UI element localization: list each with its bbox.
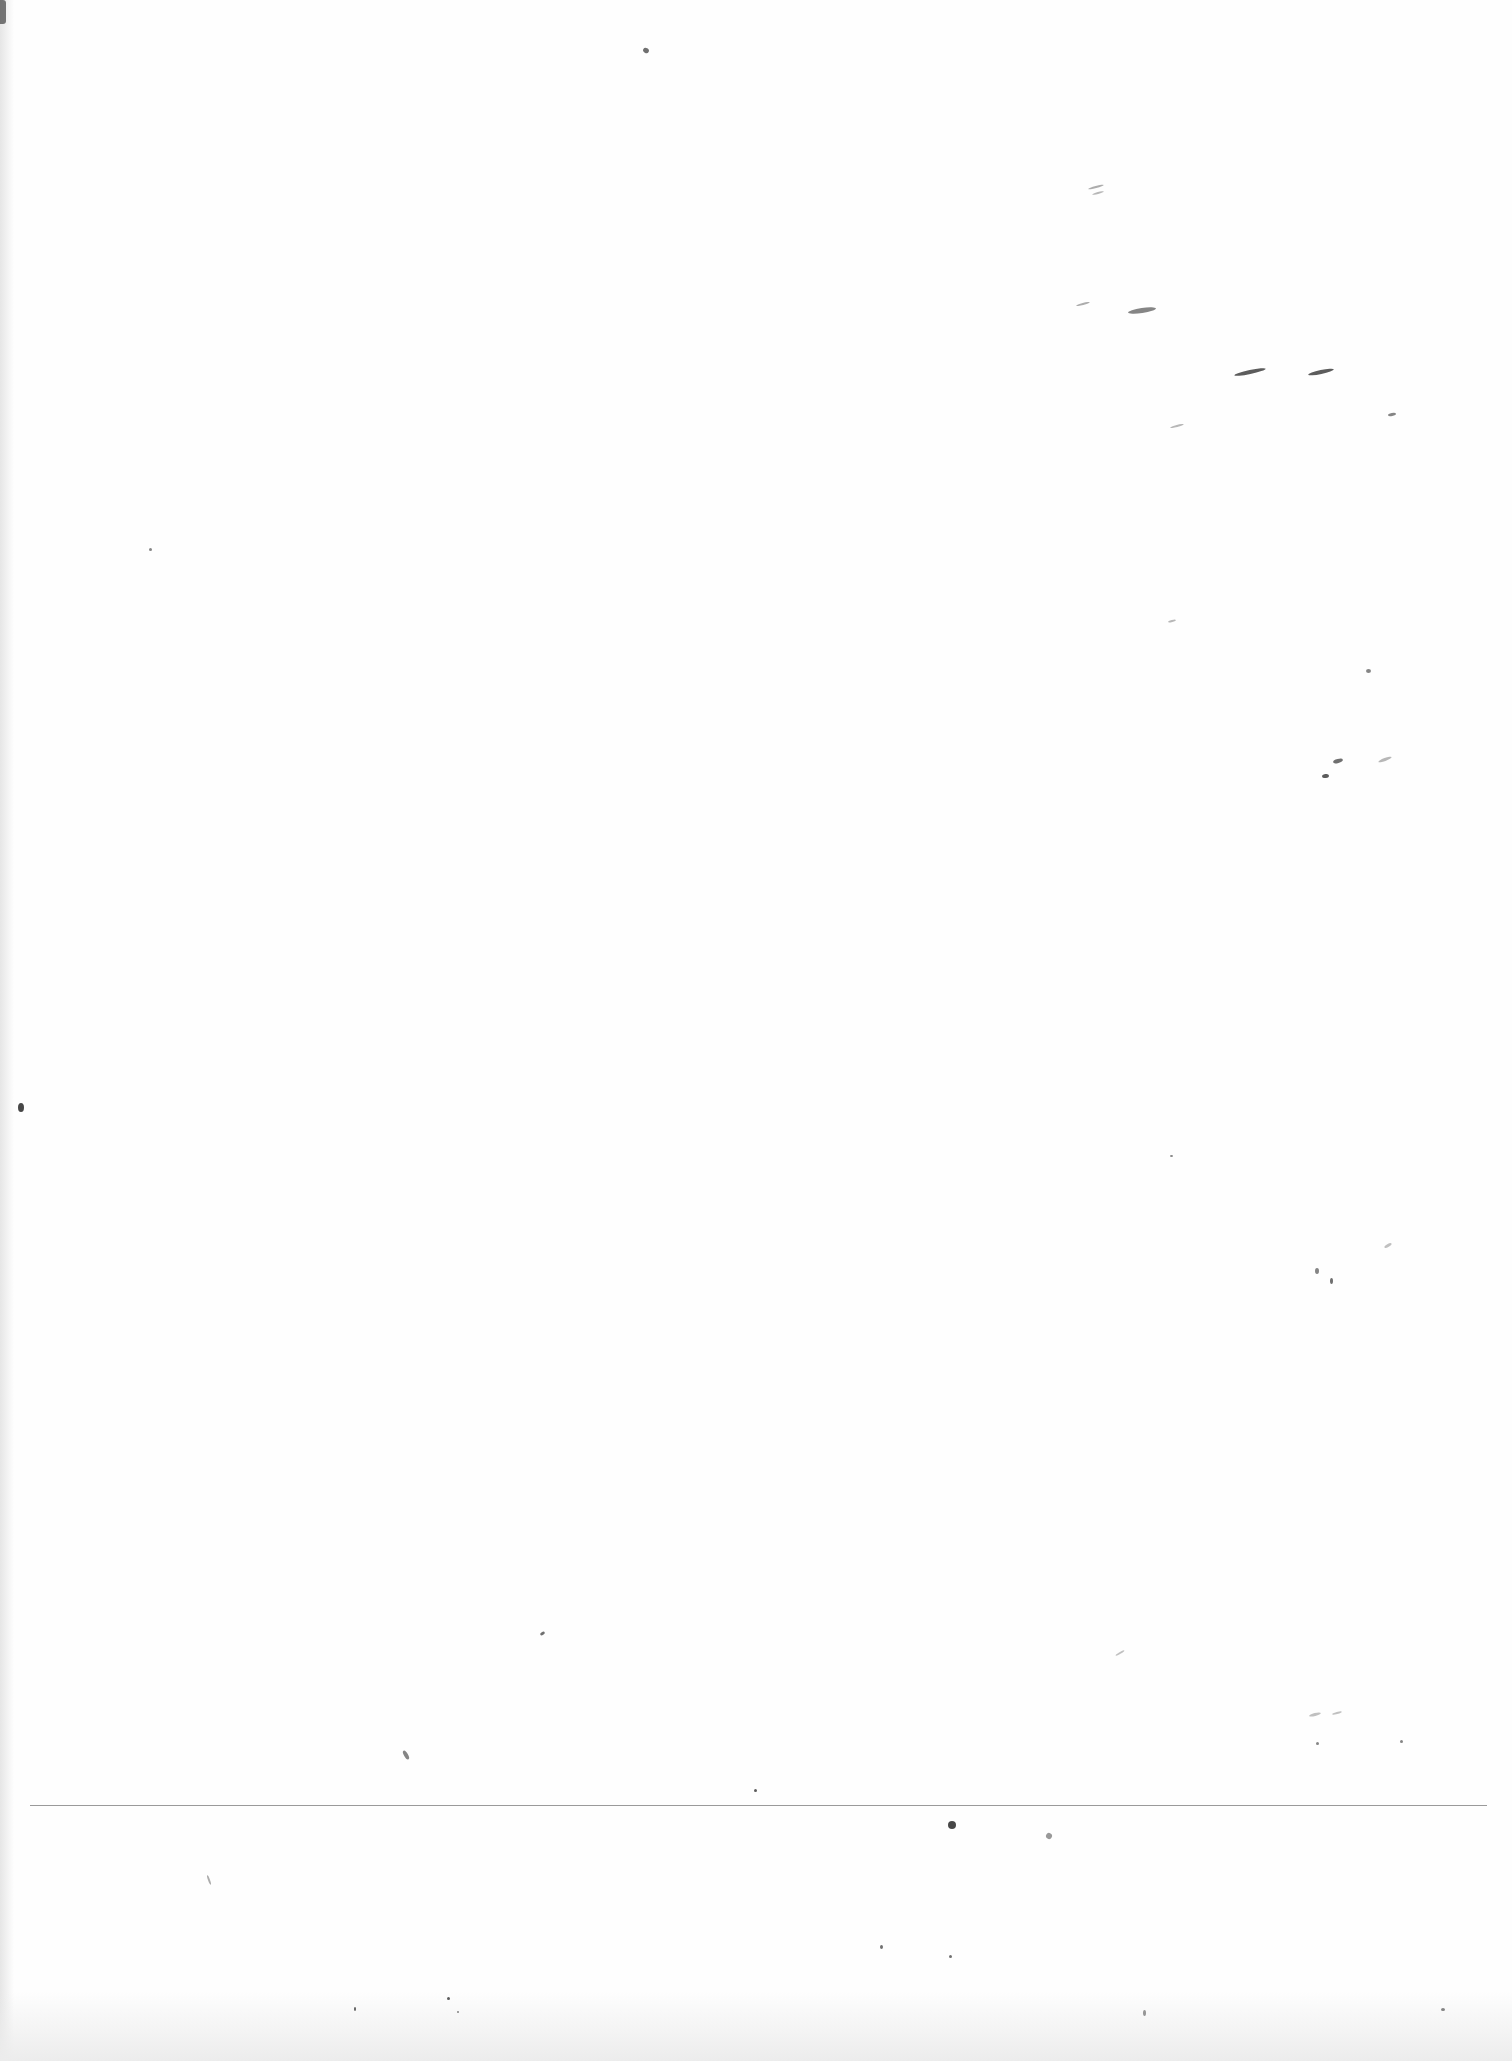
scan-speck <box>1170 1155 1173 1157</box>
scan-shadow-bottom <box>0 1991 1512 2061</box>
scan-speck <box>1384 1242 1392 1249</box>
scan-speck <box>1400 1740 1403 1743</box>
scan-speck <box>1330 1278 1333 1284</box>
scan-speck <box>1315 1268 1319 1274</box>
scan-speck <box>1076 301 1090 307</box>
scan-speck <box>1092 190 1104 195</box>
scan-speck <box>642 47 650 54</box>
scan-speck <box>1388 412 1396 416</box>
scan-speck <box>1088 184 1104 190</box>
scan-speck <box>1441 2008 1445 2011</box>
scan-speck <box>540 1631 546 1636</box>
scan-speck <box>948 1821 956 1829</box>
scan-speck <box>1333 758 1344 764</box>
scan-shadow-left <box>0 0 14 2061</box>
scan-speck <box>1170 423 1184 429</box>
scan-speck <box>880 1945 883 1949</box>
scan-speck <box>1168 619 1176 623</box>
scan-speck <box>1322 773 1330 778</box>
scan-speck <box>18 1103 24 1112</box>
scan-speck <box>457 2011 459 2013</box>
scan-speck <box>402 1750 410 1761</box>
scan-speck <box>1316 1742 1319 1745</box>
footer-horizontal-rule <box>30 1805 1487 1806</box>
scanned-page <box>0 0 1512 2061</box>
scan-speck <box>206 1875 211 1885</box>
scan-speck <box>354 2007 356 2011</box>
scan-speck <box>447 1997 450 2000</box>
scan-speck <box>949 1955 952 1958</box>
scan-speck <box>1378 756 1392 764</box>
scan-speck <box>1115 1650 1125 1657</box>
scan-speck <box>1234 367 1266 378</box>
scan-speck <box>1366 669 1371 673</box>
scan-speck <box>1143 2010 1146 2016</box>
scan-corner-mark <box>0 0 6 24</box>
scan-speck <box>149 548 152 551</box>
scan-speck <box>1128 306 1156 315</box>
scan-speck <box>1308 367 1334 376</box>
scan-speck <box>1332 1711 1342 1716</box>
scan-speck <box>754 1789 757 1792</box>
scan-speck <box>1309 1711 1321 1717</box>
scan-speck <box>1045 1832 1053 1840</box>
